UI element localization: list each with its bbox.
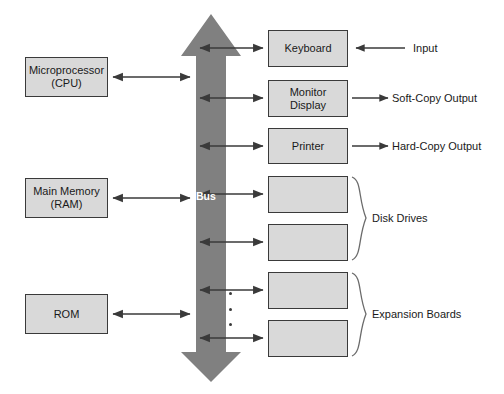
bus-architecture-diagram: Microprocessor (CPU) Main Memory (RAM) R… bbox=[0, 0, 504, 394]
component-label-keyboard: Keyboard bbox=[282, 42, 333, 55]
component-label-main-memory: Main Memory (RAM) bbox=[31, 185, 102, 211]
component-box-disk-drive-1[interactable] bbox=[268, 176, 348, 213]
component-box-expansion-board-1[interactable] bbox=[268, 272, 348, 309]
component-label-monitor-display: Monitor Display bbox=[288, 86, 329, 112]
io-label-hard-copy-output: Hard-Copy Output bbox=[392, 140, 481, 152]
component-label-cpu: Microprocessor (CPU) bbox=[27, 64, 106, 90]
ellipsis-dot bbox=[229, 323, 232, 326]
component-box-keyboard[interactable]: Keyboard bbox=[268, 30, 348, 67]
component-box-expansion-board-2[interactable] bbox=[268, 320, 348, 357]
component-box-rom[interactable]: ROM bbox=[25, 294, 108, 334]
group-label-expansion-boards: Expansion Boards bbox=[372, 308, 461, 320]
component-label-rom: ROM bbox=[52, 308, 82, 321]
component-box-cpu[interactable]: Microprocessor (CPU) bbox=[25, 57, 108, 97]
bus-label: Bus bbox=[196, 190, 216, 202]
component-box-disk-drive-2[interactable] bbox=[268, 224, 348, 261]
brace-expansion-boards bbox=[352, 273, 366, 356]
group-label-disk-drives: Disk Drives bbox=[372, 212, 428, 224]
vertical-ellipsis-icon bbox=[228, 292, 233, 326]
component-box-printer[interactable]: Printer bbox=[268, 128, 348, 164]
io-label-input: Input bbox=[413, 42, 437, 54]
ellipsis-dot bbox=[229, 308, 232, 311]
ellipsis-dot bbox=[229, 292, 232, 295]
component-box-main-memory[interactable]: Main Memory (RAM) bbox=[25, 178, 108, 218]
brace-disk-drives bbox=[352, 177, 366, 260]
component-box-monitor-display[interactable]: Monitor Display bbox=[268, 80, 348, 117]
component-label-printer: Printer bbox=[290, 140, 326, 153]
io-label-soft-copy-output: Soft-Copy Output bbox=[392, 92, 477, 104]
